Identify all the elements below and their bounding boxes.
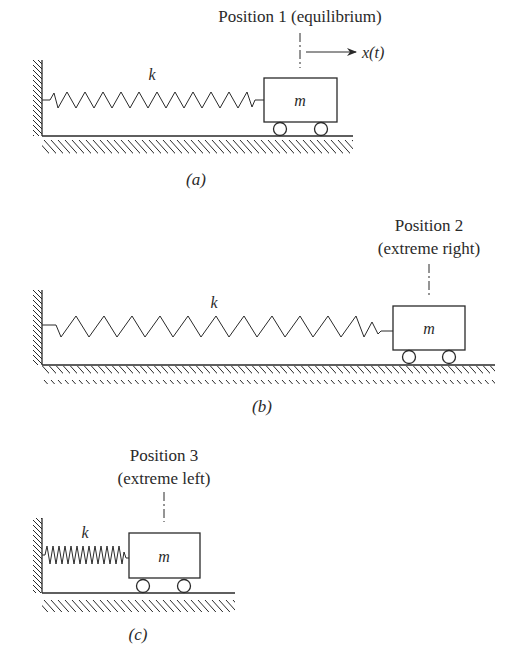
spring-b (42, 316, 393, 337)
caption-c: (c) (129, 625, 148, 644)
position-1-label: Position 1 (equilibrium) (218, 7, 381, 26)
position-2-label: Position 2 (395, 216, 464, 235)
spring-c (42, 546, 129, 564)
spring-mass-diagram: Position 1 (equilibrium) k m x(t) (a) Po… (0, 0, 509, 658)
caption-b: (b) (252, 397, 272, 416)
mass-label-b: m (423, 320, 435, 337)
position-3-sublabel: (extreme left) (118, 469, 211, 488)
wall-c (33, 518, 42, 593)
displacement-label: x(t) (361, 44, 384, 62)
caption-a: (a) (186, 170, 206, 189)
panel-b: Position 2 (extreme right) k m (b) (33, 216, 495, 416)
wheel-icon (137, 580, 150, 593)
spring-constant-label-c: k (81, 524, 89, 541)
wall-a (33, 60, 42, 136)
position-2-sublabel: (extreme right) (378, 239, 480, 258)
spring-constant-label-b: k (210, 294, 218, 311)
spring-a (42, 92, 264, 108)
ground-c (42, 593, 235, 612)
wheel-icon (403, 351, 416, 364)
position-3-label: Position 3 (130, 446, 199, 465)
wall-b (33, 290, 42, 365)
wheel-icon (274, 123, 287, 136)
panel-a: Position 1 (equilibrium) k m x(t) (a) (33, 7, 384, 189)
wheel-icon (443, 351, 456, 364)
wheel-icon (178, 580, 191, 593)
ground-a (42, 136, 353, 155)
wheel-icon (315, 123, 328, 136)
mass-label-a: m (294, 92, 306, 109)
panel-c: Position 3 (extreme left) k m (c) (33, 446, 235, 644)
ground-b (42, 365, 495, 384)
spring-constant-label-a: k (148, 66, 156, 83)
mass-label-c: m (158, 548, 170, 565)
